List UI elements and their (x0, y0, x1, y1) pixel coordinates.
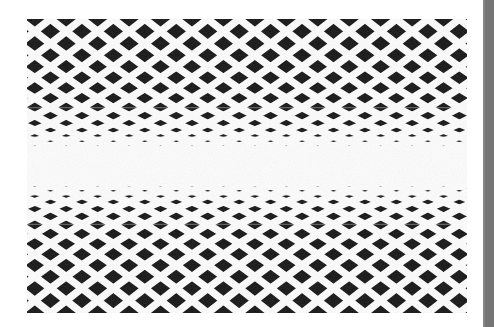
scanner-edge-bar (483, 0, 494, 327)
lattice-pattern-svg (27, 19, 467, 313)
paper-grain-overlay (27, 19, 467, 313)
artwork-image (27, 19, 467, 313)
screenshot-canvas (0, 0, 494, 327)
